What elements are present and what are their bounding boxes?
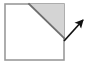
geometry-figure	[0, 0, 89, 67]
direction-arrow	[64, 20, 83, 41]
figure-container	[0, 0, 89, 67]
